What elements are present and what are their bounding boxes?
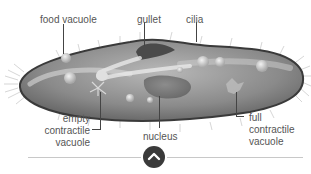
- leader-full-vacuole-v: [236, 92, 237, 116]
- scroll-up-button[interactable]: [143, 146, 165, 168]
- label-nucleus: nucleus: [143, 131, 177, 143]
- divider-right: [167, 157, 303, 158]
- label-line: contractile: [249, 124, 295, 136]
- leader-nucleus: [159, 96, 160, 128]
- divider-left: [28, 157, 141, 158]
- food-vacuole: [61, 53, 71, 63]
- label-line: vacuole: [249, 136, 295, 148]
- leader-food-vacuole: [63, 24, 64, 54]
- leader-empty-vacuole-h: [92, 129, 100, 130]
- label-line: full: [249, 112, 295, 124]
- label-empty-contractile-vacuole: empty contractile vacuole: [42, 113, 90, 149]
- label-line: vacuole: [42, 137, 90, 149]
- label-food-vacuole: food vacuole: [40, 14, 97, 26]
- label-line: contractile: [42, 125, 90, 137]
- leader-full-vacuole-h: [236, 116, 244, 117]
- label-line: empty: [42, 113, 90, 125]
- label-full-contractile-vacuole: full contractile vacuole: [249, 112, 295, 148]
- label-cilia: cilia: [186, 14, 203, 26]
- chevron-up-icon: [143, 146, 165, 168]
- leader-empty-vacuole-v: [100, 92, 101, 130]
- label-gullet: gullet: [137, 14, 161, 26]
